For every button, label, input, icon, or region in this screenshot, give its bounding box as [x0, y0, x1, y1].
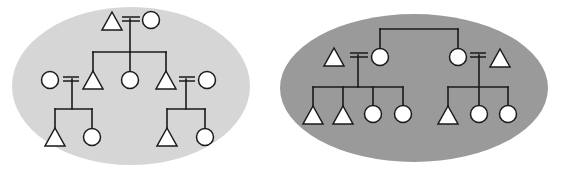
female-circle-icon — [197, 129, 214, 146]
left-kinship-group — [12, 7, 250, 165]
female-circle-icon — [500, 106, 517, 123]
female-circle-icon — [199, 72, 216, 89]
female-circle-icon — [450, 49, 467, 66]
female-circle-icon — [42, 72, 59, 89]
female-circle-icon — [84, 129, 101, 146]
kinship-diagrams-figure — [0, 0, 567, 170]
female-circle-icon — [471, 106, 488, 123]
female-circle-icon — [143, 12, 160, 29]
female-circle-icon — [365, 106, 382, 123]
female-circle-icon — [122, 72, 139, 89]
kinship-diagram-canvas — [0, 0, 567, 170]
right-kinship-group — [280, 14, 548, 162]
female-circle-icon — [372, 49, 389, 66]
female-circle-icon — [395, 106, 412, 123]
